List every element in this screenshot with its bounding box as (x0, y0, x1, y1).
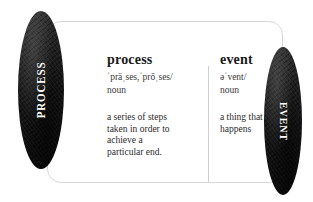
badge-event: EVENT (264, 47, 302, 195)
phonetic-process: ˈpräˌses,ˈprōˌses/ (107, 71, 203, 83)
definition-text-process: a series of steps taken in order to achi… (107, 112, 203, 158)
column-divider (208, 66, 209, 182)
headword-event: event (220, 52, 312, 67)
definition-card: process ˈpräˌses,ˈprōˌses/ noun a series… (47, 21, 283, 183)
badge-event-label: EVENT (278, 101, 289, 140)
part-of-speech-process: noun (107, 84, 203, 96)
badge-process: PROCESS (18, 11, 64, 169)
definition-entry-process: process ˈpräˌses,ˈprōˌses/ noun a series… (107, 52, 203, 158)
badge-process-label: PROCESS (35, 62, 47, 119)
headword-process: process (107, 52, 203, 67)
screenshot-canvas: process ˈpräˌses,ˈprōˌses/ noun a series… (0, 0, 313, 202)
